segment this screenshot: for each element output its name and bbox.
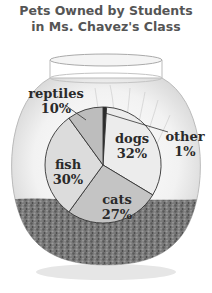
bowl-shadow [36,264,176,280]
bowl-rim [50,54,162,66]
label-reptiles: reptiles 10% [26,86,86,116]
label-cats: cats 27% [95,192,139,222]
label-fish: fish 30% [46,157,90,187]
label-dogs: dogs 32% [110,131,154,161]
label-other: other 1% [162,129,208,159]
